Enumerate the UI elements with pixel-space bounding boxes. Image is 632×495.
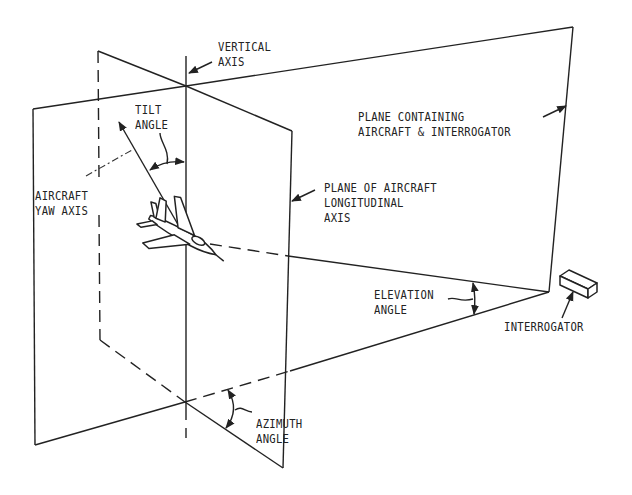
tilt-angle-arc	[150, 133, 184, 170]
vertical-axis-label-line2: AXIS	[218, 55, 271, 70]
interrogator-label-line1: INTERROGATOR	[504, 320, 584, 335]
line-of-sight	[210, 244, 549, 292]
azimuth-angle-arc	[226, 390, 252, 428]
plane-containing-label: PLANE CONTAINING AIRCRAFT & INTERROGATOR	[358, 110, 511, 140]
yaw-projection-line	[86, 150, 132, 176]
plane-containing-pointer	[543, 106, 566, 117]
aircraft-icon	[129, 185, 240, 282]
vertical-axis-label-line1: VERTICAL	[218, 40, 271, 55]
interrogator-pointer	[562, 292, 573, 318]
longitudinal-plane-pointer	[292, 190, 315, 201]
interrogator-label: INTERROGATOR	[504, 320, 584, 335]
elevation-angle-label: ELEVATION ANGLE	[374, 288, 434, 318]
tilt-angle-label-line2: ANGLE	[135, 118, 168, 133]
plane-of-aircraft-label-line2: LONGITUDINAL	[324, 196, 437, 211]
plane-of-aircraft-label: PLANE OF AIRCRAFT LONGITUDINAL AXIS	[324, 181, 437, 226]
plane-containing-label-line2: AIRCRAFT & INTERROGATOR	[358, 125, 511, 140]
elevation-angle-arc	[448, 283, 475, 314]
plane-of-aircraft-label-line3: AXIS	[324, 211, 437, 226]
tilt-angle-label-line1: TILT	[135, 103, 168, 118]
plane-of-aircraft-label-line1: PLANE OF AIRCRAFT	[324, 181, 437, 196]
interrogator-box-icon	[560, 270, 597, 298]
aircraft-angles-diagram	[0, 0, 632, 495]
azimuth-angle-label-line2: ANGLE	[256, 432, 303, 447]
plane-aircraft-interrogator	[33, 27, 573, 445]
tilt-angle-label: TILT ANGLE	[135, 103, 168, 133]
plane-longitudinal-axis	[98, 51, 292, 468]
aircraft-yaw-axis-label: AIRCRAFT YAW AXIS	[35, 189, 88, 219]
aircraft-yaw-axis-arrow	[119, 122, 180, 228]
yaw-axis-label-line1: AIRCRAFT	[35, 189, 88, 204]
vertical-axis-label: VERTICAL AXIS	[218, 40, 271, 70]
plane-containing-label-line1: PLANE CONTAINING	[358, 110, 511, 125]
azimuth-angle-label: AZIMUTH ANGLE	[256, 417, 303, 447]
elevation-angle-label-line1: ELEVATION	[374, 288, 434, 303]
elevation-angle-label-line2: ANGLE	[374, 303, 434, 318]
vertical-axis-pointer	[189, 62, 212, 73]
azimuth-angle-label-line1: AZIMUTH	[256, 417, 303, 432]
yaw-axis-label-line2: YAW AXIS	[35, 204, 88, 219]
